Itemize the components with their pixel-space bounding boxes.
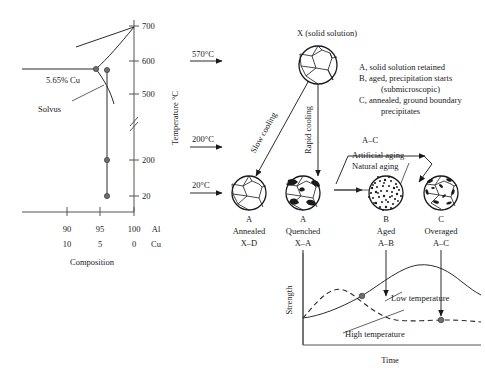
state-letter-annealed: A [246,214,253,224]
legend-block: A, solid solution retained B, aged, prec… [359,62,462,116]
low-temperature-label: Low temperature [391,293,450,303]
microstructure-quenched [286,176,320,210]
state-name-aged: Aged [377,226,396,236]
arrow-200-label: 200°C [192,134,214,144]
process-arrows: 570°C 200°C 20°C [190,49,222,193]
xtick-label-10: 10 [63,239,72,249]
strength-axis-label: Strength [284,285,294,315]
ytick-label-600: 600 [142,56,155,66]
state-name-annealed: Annealed [233,226,266,236]
state-name-quenched: Quenched [286,226,321,236]
state-letter-overaged: C [438,214,444,224]
slow-cooling-label: Slow cooling [248,110,279,155]
marker-b-point [359,293,365,299]
state-letter-quenched: A [300,214,307,224]
xtick-label-al: Al [152,224,161,234]
microstructure-overaged [424,176,458,210]
legend-line-4: C, annealed, ground boundary [359,95,462,105]
xtick-label-cu: Cu [151,239,162,249]
heat-treatment-diagram: 700 600 500 200 20 Temperature °C 90 95 … [0,0,485,368]
state-name-overaged: Overaged [424,226,458,236]
ytick-label-200: 200 [142,155,155,165]
ytick-label-700: 700 [142,21,155,31]
marker-c-point [438,317,444,323]
time-axis-label: Time [381,355,399,365]
natural-aging-label: Natural aging [352,161,399,171]
composition-axis-label: Composition [70,257,115,267]
temperature-axis-label: Temperature °C [170,91,180,145]
point-200c [104,157,109,162]
microstructure-aged [368,176,403,211]
rapid-cooling-label: Rapid cooling [303,105,313,154]
xtick-label-5: 5 [98,239,102,249]
legend-line-5: precipitates [381,106,420,116]
point-570c [104,67,109,72]
state-transition-aged: A–B [378,238,394,248]
state-transition-overaged: A–C [433,238,449,248]
state-transition-quenched: X–A [295,238,312,248]
xtick-label-95: 95 [96,224,105,234]
xtick-label-100: 100 [128,224,141,234]
flow-title: X (solid solution) [297,28,357,38]
legend-line-1: A, solid solution retained [359,62,446,72]
xtick-label-0: 0 [132,239,136,249]
ytick-label-500: 500 [142,89,155,99]
microstructure-annealed [232,176,266,210]
arrow-570-label: 570°C [192,49,214,59]
state-transition-annealed: X–D [241,238,258,248]
strength-time-chart: Strength Time Low temperature High tempe… [284,250,481,365]
legend-line-3: (submicroscopic) [381,84,440,94]
state-labels: A Annealed X–D A Quenched X–A B Aged A–B… [233,214,459,248]
point-20c [104,193,109,198]
eutectic-label: 5.65% Cu [46,75,81,85]
diagram-canvas: 700 600 500 200 20 Temperature °C 90 95 … [0,0,485,368]
solvus-leader-line [72,85,104,101]
solvus-label: Solvus [38,104,61,114]
xtick-label-90: 90 [63,224,72,234]
artificial-aging-label: Artificial aging [352,150,405,160]
aging-top-label: A–C [362,135,378,145]
microstructure-x-solid-solution [299,46,337,84]
cooling-arrows: Slow cooling Rapid cooling [248,82,318,176]
legend-line-2: B, aged, precipitation starts [359,73,452,83]
point-eutectic [93,66,98,71]
ytick-label-20: 20 [142,191,151,201]
phase-diagram: 700 600 500 200 20 Temperature °C 90 95 … [22,20,180,267]
arrow-20-label: 20°C [192,180,210,190]
state-letter-aged: B [383,214,389,224]
high-temperature-label: High temperature [345,329,405,339]
overaged-arrow [419,156,432,182]
solvus-curve [96,69,114,104]
